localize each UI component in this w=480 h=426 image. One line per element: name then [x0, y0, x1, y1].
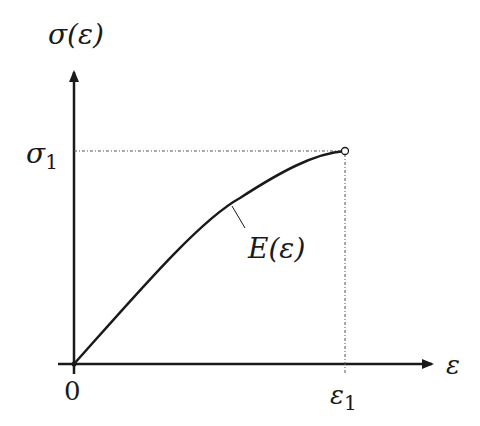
origin-label: 0 [64, 376, 81, 406]
x-axis-label: ε [446, 350, 460, 380]
y-axis-label: σ(ε) [48, 18, 104, 51]
end-point-marker [342, 148, 349, 155]
stress-strain-diagram: σ(ε) ε 0 σ1 ε1 E(ε) [0, 0, 480, 426]
curve-label: E(ε) [247, 232, 305, 265]
sigma1-label: σ1 [26, 137, 58, 174]
curve-label-leader [232, 206, 245, 228]
origin-point [72, 362, 77, 367]
epsilon1-label: ε1 [330, 380, 357, 415]
